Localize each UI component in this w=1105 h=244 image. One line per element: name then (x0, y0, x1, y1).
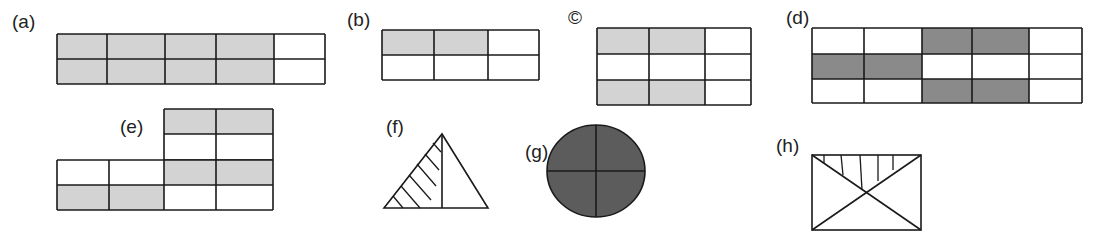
fraction-figures-canvas (0, 0, 1105, 244)
shaded-cell (812, 54, 864, 79)
label-a: (a) (12, 12, 35, 31)
figure-f-hatch-line (393, 196, 403, 208)
shaded-cell (165, 59, 216, 84)
label-f: (f) (386, 117, 404, 136)
shaded-cell (109, 185, 164, 210)
figure-f-triangle (384, 134, 488, 208)
shaded-cell (922, 28, 972, 54)
shaded-cell (864, 54, 922, 79)
shaded-cell (216, 34, 274, 59)
shaded-cell (382, 30, 434, 55)
figure-f-hatch-line (409, 175, 431, 200)
figure-f-hatch-line (433, 143, 441, 152)
shaded-cell (165, 34, 216, 59)
shaded-cell (164, 160, 216, 185)
shaded-cell (216, 160, 273, 185)
shaded-cell (922, 79, 972, 103)
shaded-cell (972, 28, 1029, 54)
shaded-cell (57, 59, 107, 84)
figure-f-hatch-line (401, 186, 420, 208)
figure-c-grid (597, 28, 751, 105)
shaded-cell (216, 59, 274, 84)
figure-f-hatch-line (417, 164, 436, 186)
label-g: (g) (525, 142, 548, 161)
figure-d-grid (812, 28, 1082, 103)
label-h: (h) (776, 136, 799, 155)
figure-e-upper-grid (164, 109, 273, 160)
figure-f-hatch-line (425, 154, 439, 170)
label-d: (d) (786, 8, 809, 27)
shaded-cell (972, 79, 1029, 103)
figure-b-grid (382, 30, 539, 80)
figure-e-lower-grid (57, 160, 273, 210)
label-e: (e) (120, 117, 143, 136)
shaded-cell (649, 28, 705, 54)
shaded-cell (57, 34, 107, 59)
shaded-cell (434, 30, 488, 55)
shaded-cell (597, 80, 649, 105)
shaded-cell (597, 28, 649, 54)
figure-h-hatch-line (841, 155, 843, 175)
shaded-cell (107, 34, 165, 59)
label-b: (b) (347, 10, 370, 29)
shaded-cell (57, 185, 109, 210)
shaded-cell (107, 59, 165, 84)
figure-h-hatch-line (860, 155, 862, 190)
label-c: © (568, 8, 582, 27)
shaded-cell (164, 109, 216, 134)
figure-a-grid (57, 34, 325, 84)
shaded-cell (216, 109, 273, 134)
shaded-cell (649, 80, 705, 105)
